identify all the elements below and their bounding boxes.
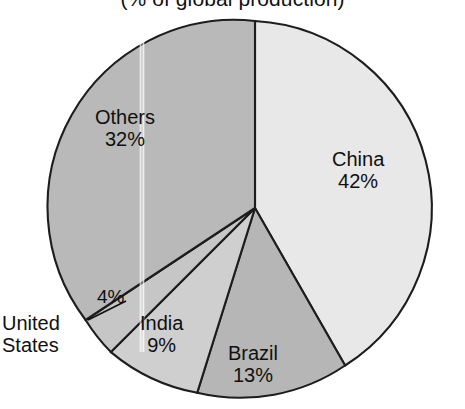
pie-chart-figure: (% of global production) China 42% Other… [0,0,465,409]
slice-label-united-states-name-line2: States [2,334,59,356]
slice-label-united-states-name-line1: United [2,312,60,334]
pie-chart-canvas [0,0,465,409]
slice-label-united-states-name: United States [2,312,60,357]
